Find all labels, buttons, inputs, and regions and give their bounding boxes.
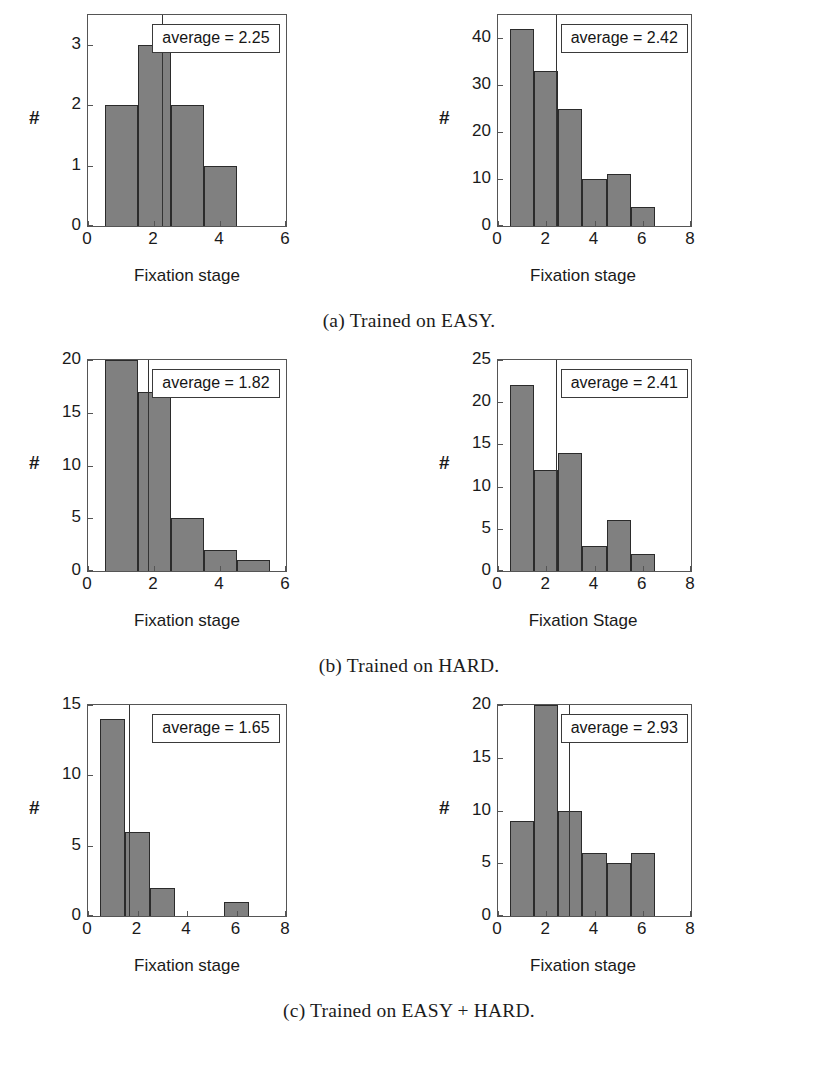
x-tick-label: 2 [541,574,550,594]
x-tick-mark [88,911,89,916]
average-annotation: average = 2.93 [561,714,688,743]
plot-area-a-left: # Fixation stage 01230246average = 2.25 [9,0,409,297]
x-tick-label: 2 [148,574,157,594]
y-tick-label: 10 [62,764,81,784]
x-axis-label: Fixation stage [383,956,783,976]
y-tick-label: 0 [482,905,491,925]
y-tick-label: 0 [72,215,81,235]
figure-row-a: # Fixation stage 01230246average = 2.25 … [0,0,818,297]
y-tick-mark [498,444,503,445]
x-tick-mark [690,566,691,571]
x-tick-label: 4 [589,229,598,249]
y-tick-label: 0 [72,905,81,925]
x-tick-label: 4 [181,919,190,939]
histogram-bar [582,853,606,916]
y-tick-mark [88,360,93,361]
y-tick-mark [88,705,93,706]
x-tick-label: 0 [82,574,91,594]
x-tick-label: 8 [280,919,289,939]
y-tick-mark [498,38,503,39]
y-tick-mark [498,402,503,403]
mean-line [148,360,149,571]
histogram-bar [100,719,125,916]
y-tick-mark [88,45,93,46]
y-tick-label: 20 [472,694,491,714]
average-annotation: average = 1.82 [152,369,279,398]
figure-row-b: # Fixation stage 051015200246average = 1… [0,345,818,642]
plot-area-b-right: # Fixation Stage 051015202502468average … [409,345,809,642]
average-annotation: average = 2.41 [561,369,688,398]
x-tick-label: 2 [148,229,157,249]
y-tick-mark [498,705,503,706]
x-tick-mark [690,221,691,226]
y-tick-label: 15 [472,747,491,767]
x-tick-mark [220,221,221,226]
y-axis-label: # [29,452,40,474]
histogram-bar [510,385,534,571]
histogram-bar [150,888,175,916]
x-tick-mark [546,221,547,226]
subfigure-caption-a: (a) Trained on EASY. [0,297,818,345]
x-tick-mark [88,221,89,226]
x-tick-label: 6 [280,574,289,594]
y-tick-label: 40 [472,27,491,47]
y-tick-label: 0 [482,215,491,235]
x-tick-mark [285,221,286,226]
x-tick-label: 0 [82,919,91,939]
y-axis-label: # [29,107,40,129]
x-tick-mark [595,911,596,916]
x-tick-mark [498,566,499,571]
x-tick-mark [154,221,155,226]
x-tick-mark [285,911,286,916]
y-tick-mark [498,487,503,488]
y-tick-mark [88,775,93,776]
x-tick-mark [690,911,691,916]
y-tick-label: 20 [472,121,491,141]
x-tick-label: 4 [214,574,223,594]
y-tick-mark [498,85,503,86]
x-tick-label: 6 [637,229,646,249]
x-tick-label: 2 [541,919,550,939]
histogram-bar [558,811,582,917]
y-tick-label: 0 [72,560,81,580]
x-tick-label: 4 [214,229,223,249]
x-tick-mark [546,911,547,916]
y-tick-label: 25 [472,349,491,369]
y-axis-label: # [29,797,40,819]
histogram-bar [105,360,138,571]
y-tick-label: 3 [72,34,81,54]
y-tick-label: 5 [72,835,81,855]
x-tick-mark [285,566,286,571]
y-axis-label: # [439,107,450,129]
y-tick-label: 15 [62,402,81,422]
x-tick-mark [498,221,499,226]
histogram-bar [237,560,270,571]
mean-line [556,15,557,226]
plot-area-c-left: # Fixation stage 05101502468average = 1.… [9,690,409,987]
y-tick-label: 20 [472,391,491,411]
y-tick-label: 1 [72,155,81,175]
average-annotation: average = 2.42 [561,24,688,53]
histogram-bar [558,453,582,571]
panel-b-right: # Fixation Stage 051015202502468average … [409,345,809,642]
x-tick-label: 6 [637,919,646,939]
y-tick-label: 5 [482,852,491,872]
x-tick-mark [546,566,547,571]
x-axis-label: Fixation stage [0,611,387,631]
y-tick-label: 10 [472,168,491,188]
histogram-bar [138,392,171,571]
histogram-bar [171,105,204,226]
x-tick-mark [220,566,221,571]
x-axis-label: Fixation stage [0,956,387,976]
x-tick-mark [498,911,499,916]
average-annotation: average = 2.25 [152,24,279,53]
x-tick-label: 6 [280,229,289,249]
plot-area-b-left: # Fixation stage 051015200246average = 1… [9,345,409,642]
x-tick-mark [595,221,596,226]
x-tick-label: 0 [492,229,501,249]
histogram-bar [510,29,534,226]
y-tick-label: 15 [62,694,81,714]
y-tick-label: 0 [482,560,491,580]
panel-a-left: # Fixation stage 01230246average = 2.25 [9,0,409,297]
panel-b-left: # Fixation stage 051015200246average = 1… [9,345,409,642]
